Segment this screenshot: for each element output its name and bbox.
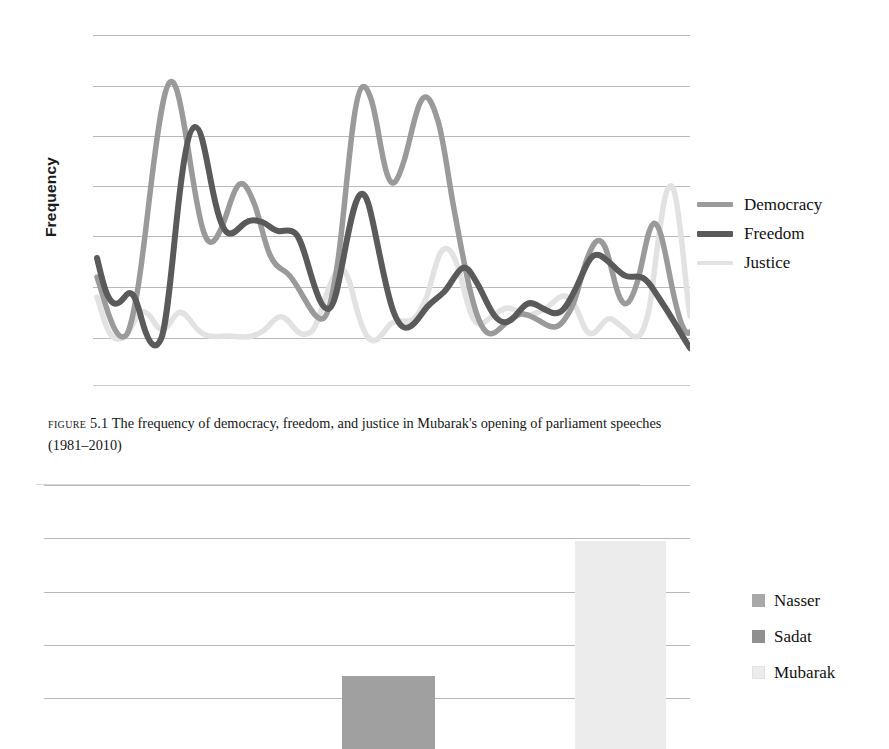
figure-one-line-chart: Frequency Democracy Freedom Justice Figu… [0, 0, 889, 470]
legend-item-justice: Justice [697, 248, 882, 277]
legend-label-freedom: Freedom [744, 225, 804, 242]
bar-swatch-mubarak-icon [752, 666, 765, 679]
legend-label-nasser: Nasser [774, 592, 820, 609]
bar-sadat-overlay [342, 677, 435, 749]
bar-chart-legend: Nasser Sadat Mubarak [752, 582, 882, 690]
bar-swatch-sadat-icon [752, 630, 765, 643]
line-swatch-justice-icon [697, 261, 733, 265]
legend-item-mubarak: Mubarak [752, 654, 882, 690]
legend-label-democracy: Democracy [744, 196, 822, 213]
legend-item-sadat: Sadat [752, 618, 882, 654]
bar-swatch-nasser-icon [752, 594, 765, 607]
figure-caption-text: The frequency of democracy, freedom, and… [48, 415, 661, 453]
bar-chart-plot-area [44, 485, 690, 749]
legend-label-justice: Justice [744, 254, 790, 271]
legend-label-sadat: Sadat [774, 628, 812, 645]
line-chart-plot-area [93, 30, 690, 390]
figure-caption-number: 5.1 [86, 415, 108, 431]
bar-chart-svg [44, 485, 690, 749]
figure-caption: Figure 5.1 The frequency of democracy, f… [48, 412, 668, 456]
bar-mubarak-overlay [575, 542, 666, 749]
legend-item-democracy: Democracy [697, 190, 882, 219]
line-chart-legend: Democracy Freedom Justice [697, 190, 882, 277]
figure-two-bar-chart: Nasser Sadat Mubarak [0, 470, 889, 749]
legend-label-mubarak: Mubarak [774, 664, 835, 681]
line-swatch-democracy-icon [697, 202, 733, 207]
series-line-democracy [97, 81, 690, 337]
legend-item-freedom: Freedom [697, 219, 882, 248]
legend-item-nasser: Nasser [752, 582, 882, 618]
line-chart-svg [93, 30, 690, 390]
line-swatch-freedom-icon [697, 231, 733, 237]
figure-caption-tag: Figure [48, 415, 86, 431]
y-axis-title: Frequency [42, 137, 60, 257]
